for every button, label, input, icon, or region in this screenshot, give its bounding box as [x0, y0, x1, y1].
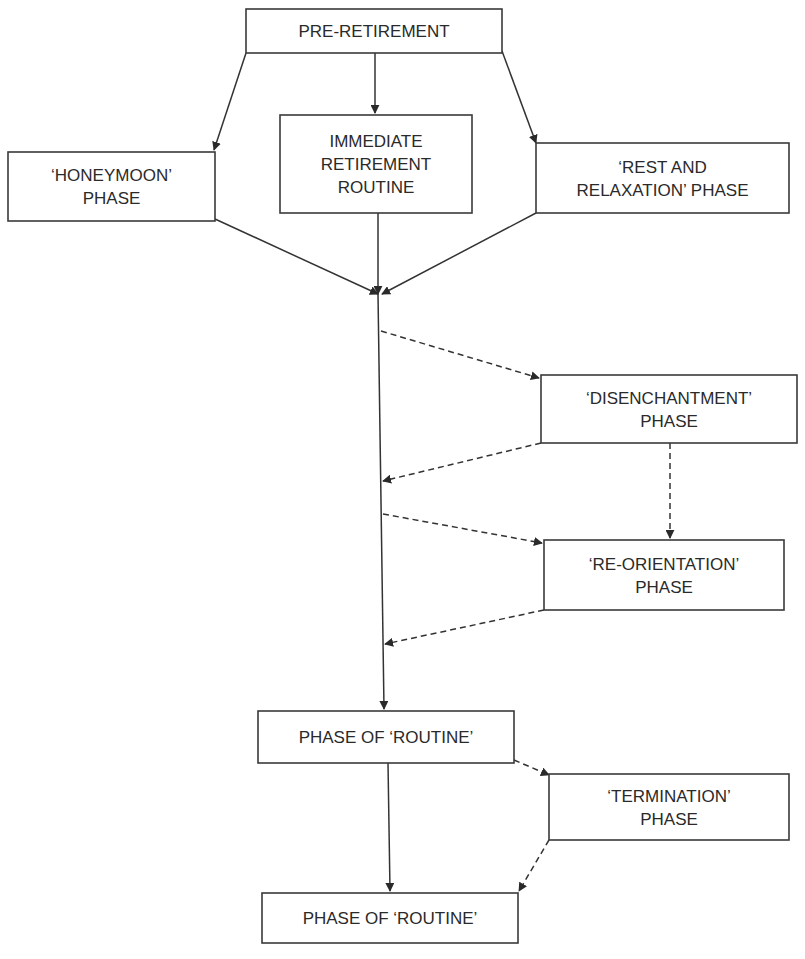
- arrow-routine-1-to-termination: [514, 760, 549, 775]
- arrow-termination-to-routine-2: [519, 840, 549, 891]
- node-rest-relaxation: ‘REST ANDRELAXATION’ PHASE: [536, 143, 789, 213]
- node-label-line: ‘DISENCHANTMENT’: [586, 389, 752, 408]
- node-box: [541, 375, 797, 443]
- node-label-line: ‘REST AND: [618, 158, 707, 177]
- arrow-main-line-to-disenchantment: [381, 331, 539, 378]
- node-label-line: PHASE: [640, 810, 698, 829]
- arrow-convergence-to-routine-1: [378, 294, 384, 709]
- node-immediate-routine: IMMEDIATERETIREMENTROUTINE: [280, 115, 472, 213]
- node-disenchantment: ‘DISENCHANTMENT’PHASE: [541, 375, 797, 443]
- node-honeymoon: ‘HONEYMOON’PHASE: [8, 152, 215, 221]
- arrow-honeymoon-to-convergence: [215, 219, 378, 294]
- node-label-line: RELAXATION’ PHASE: [577, 181, 749, 200]
- node-routine-2: PHASE OF ‘ROUTINE’: [262, 893, 518, 943]
- arrow-main-line-to-reorientation: [383, 514, 542, 543]
- node-label-line: ROUTINE: [338, 178, 415, 197]
- arrow-pre-retirement-to-honeymoon: [214, 53, 246, 150]
- node-routine-1: PHASE OF ‘ROUTINE’: [258, 711, 514, 763]
- arrow-routine-1-to-routine-2: [388, 763, 390, 891]
- node-label-line: PHASE: [640, 412, 698, 431]
- node-label-line: PRE-RETIREMENT: [298, 22, 449, 41]
- arrow-disenchantment-to-main-line: [383, 443, 541, 481]
- node-box: [544, 540, 784, 610]
- node-box: [536, 143, 789, 213]
- retirement-phases-diagram: PRE-RETIREMENT‘HONEYMOON’PHASEIMMEDIATER…: [0, 0, 805, 959]
- node-label-line: ‘RE-ORIENTATION’: [589, 555, 739, 574]
- node-pre-retirement: PRE-RETIREMENT: [246, 9, 502, 53]
- node-label-line: IMMEDIATE: [329, 132, 422, 151]
- node-box: [549, 774, 789, 840]
- node-label-line: PHASE OF ‘ROUTINE’: [303, 909, 478, 928]
- node-label-line: PHASE: [635, 578, 693, 597]
- node-label-line: PHASE: [83, 189, 141, 208]
- arrow-pre-retirement-to-rest-relaxation: [502, 51, 536, 143]
- node-reorientation: ‘RE-ORIENTATION’PHASE: [544, 540, 784, 610]
- node-label-line: PHASE OF ‘ROUTINE’: [299, 728, 474, 747]
- node-label-line: ‘HONEYMOON’: [51, 166, 172, 185]
- node-box: [8, 152, 215, 221]
- arrow-rest-relaxation-to-convergence: [382, 213, 536, 294]
- node-termination: ‘TERMINATION’PHASE: [549, 774, 789, 840]
- arrow-reorientation-to-main-line: [385, 610, 544, 644]
- node-label-line: RETIREMENT: [321, 155, 432, 174]
- node-label-line: ‘TERMINATION’: [607, 787, 730, 806]
